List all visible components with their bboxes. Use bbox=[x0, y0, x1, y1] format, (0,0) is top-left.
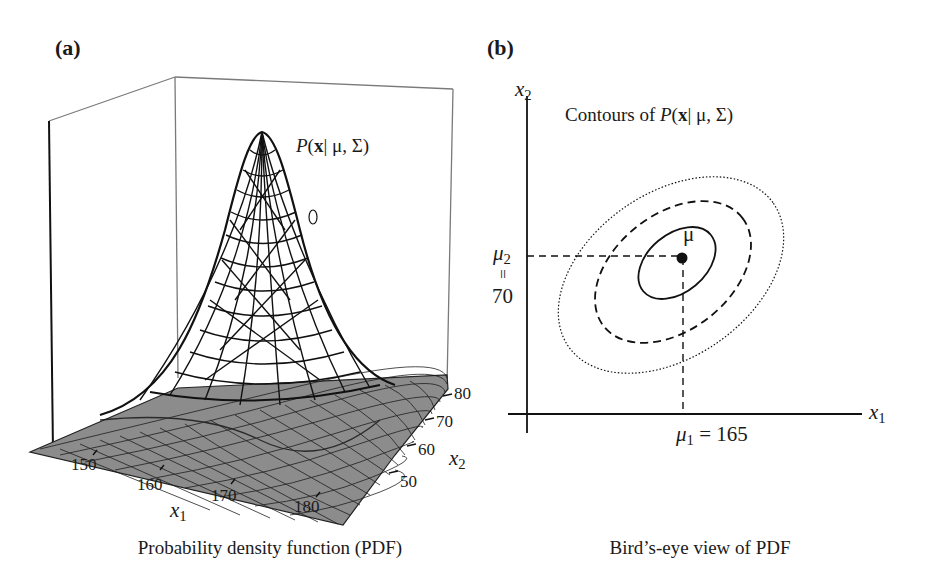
panel-b-mean-label: μ bbox=[683, 222, 694, 247]
panel-b-mu2-value: 70 bbox=[492, 284, 513, 309]
panel-b-caption: Bird’s-eye view of PDF bbox=[580, 537, 820, 559]
panel-b-mean-point bbox=[677, 253, 688, 264]
panel-b-mu2-label: μ2 bbox=[493, 241, 511, 268]
panel-b-contour-inner bbox=[625, 213, 730, 314]
panel-b-title: Contours of P(x| μ, Σ) bbox=[565, 104, 733, 126]
panel-b-x2-axis-label: x2 bbox=[515, 77, 532, 104]
panel-b-mu2-equals: = bbox=[492, 269, 512, 279]
panel-b-contour-middle bbox=[568, 172, 778, 372]
panel-b-contour-plot bbox=[0, 0, 931, 567]
panel-b-x1-axis-label: x1 bbox=[869, 400, 886, 427]
panel-b-contour-outer bbox=[522, 136, 821, 414]
panel-b-mu1-label: μ1 = 165 bbox=[676, 422, 748, 449]
